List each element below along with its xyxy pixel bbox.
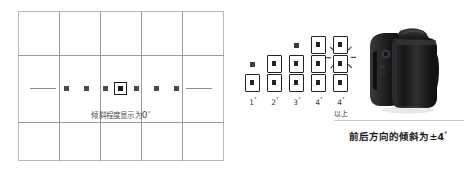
step-label-2: 2°	[264, 96, 286, 107]
camera-pentaprism	[397, 28, 430, 40]
viewfinder-tilt-scale	[18, 81, 224, 97]
scale-tick-1	[64, 86, 69, 91]
step-cell-c4-r0	[309, 55, 329, 75]
step-cell-c4-r-top	[309, 36, 329, 56]
step-box-icon	[333, 55, 348, 73]
step-cell-c1-r1	[243, 74, 263, 94]
step-label-sublabel: 以上	[330, 108, 352, 118]
step-cell-c5-r1	[331, 74, 351, 94]
degree-symbol-icon: °	[342, 96, 345, 102]
camera-top-plate	[396, 39, 436, 45]
tilt-step-labels: 1° 2° 3° 4° 4° 以上	[243, 96, 355, 120]
tilt-step-indicator-panel: 1° 2° 3° 4° 4° 以上	[243, 36, 355, 120]
viewfinder-caption-text: 倾斜程度显示为	[91, 111, 141, 120]
dslr-camera-icon	[366, 24, 452, 116]
camera-caption-text: 前后方向的倾斜为±4	[349, 131, 445, 142]
scale-tick-3	[103, 86, 108, 91]
step-cell-c5-r-top-blinking	[331, 36, 351, 56]
scale-tick-7	[174, 86, 179, 91]
step-box-icon	[289, 74, 304, 92]
step-box-icon	[333, 36, 348, 54]
viewfinder-panel: 倾斜程度显示为0°	[18, 11, 224, 161]
camera-mount-edge	[432, 48, 439, 98]
step-cell-c1-r0	[243, 55, 263, 75]
step-dot-icon	[250, 62, 255, 67]
step-label-5-over: 4° 以上	[330, 96, 352, 118]
step-box-icon	[267, 74, 282, 92]
step-box-icon	[245, 74, 260, 92]
grid-line-horizontal-1	[18, 55, 224, 56]
camera-side-button-2	[380, 72, 385, 75]
camera-grip-texture	[373, 51, 377, 90]
degree-symbol-icon: °	[298, 96, 301, 102]
grid-line-horizontal-2	[18, 122, 224, 123]
degree-symbol-icon: °	[276, 96, 279, 102]
step-label-4: 4°	[308, 96, 330, 107]
step-cell-c4-r1	[309, 74, 329, 94]
scale-tick-6	[154, 86, 159, 91]
tilt-step-grid	[243, 36, 355, 94]
scale-tick-center-highlight	[114, 82, 127, 95]
scale-tick-2	[84, 86, 89, 91]
camera-body	[392, 38, 437, 108]
step-box-icon	[333, 74, 348, 92]
step-cell-c3-r0	[287, 55, 307, 75]
degree-symbol-icon: °	[254, 96, 257, 102]
camera-rear-dial-center	[384, 52, 388, 56]
step-cell-c3-top-dot	[287, 36, 307, 56]
step-label-3: 3°	[286, 96, 308, 107]
viewfinder-caption: 倾斜程度显示为0°	[18, 109, 224, 120]
camera-shadow	[382, 107, 434, 114]
camera-side-button-1	[380, 65, 385, 68]
scale-rule-left	[30, 88, 56, 89]
camera-panel: 前后方向的倾斜为±4°	[358, 14, 464, 158]
step-dot-icon	[294, 43, 299, 48]
step-cell-c3-r1	[287, 74, 307, 94]
step-cell-c5-r0	[331, 55, 351, 75]
step-box-icon	[267, 55, 282, 73]
step-box-icon	[311, 36, 326, 54]
step-box-icon	[311, 55, 326, 73]
figure-root: 倾斜程度显示为0°	[0, 0, 468, 172]
caption-divider	[334, 120, 464, 121]
step-box-icon	[311, 74, 326, 92]
step-label-1: 1°	[242, 96, 264, 107]
step-box-icon	[289, 55, 304, 73]
degree-symbol-icon: °	[148, 110, 151, 116]
step-cell-c2-r1	[265, 74, 285, 94]
step-cell-c2-r0	[265, 55, 285, 75]
degree-symbol-icon: °	[444, 130, 447, 137]
scale-tick-5	[134, 86, 139, 91]
scale-rule-right	[186, 88, 212, 89]
camera-caption: 前后方向的倾斜为±4°	[332, 129, 464, 143]
degree-symbol-icon: °	[320, 96, 323, 102]
